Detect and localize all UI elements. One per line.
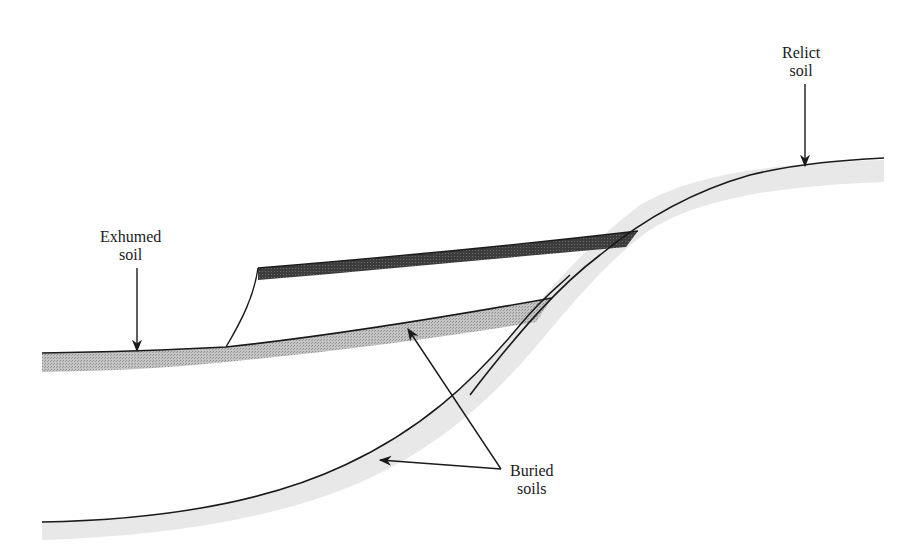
buried-soils-arrow-lower [380, 460, 501, 469]
buried-soils-label: Buried soils [510, 462, 554, 498]
exhumed-soil-label: Exhumed soil [100, 228, 161, 264]
buried-soils-label-line1: Buried [510, 462, 554, 480]
exhumed-soil-label-line1: Exhumed [100, 228, 161, 246]
exhumed-soil-band [42, 298, 552, 372]
soil-cross-section-diagram [0, 0, 919, 556]
buried-soils-label-line2: soils [510, 480, 554, 498]
relict-soil-label: Relict soil [782, 44, 820, 80]
scarp-line [226, 268, 258, 347]
exhumed-soil-label-line2: soil [100, 246, 161, 264]
relict-soil-label-line1: Relict [782, 44, 820, 62]
relict-soil-label-line2: soil [782, 62, 820, 80]
